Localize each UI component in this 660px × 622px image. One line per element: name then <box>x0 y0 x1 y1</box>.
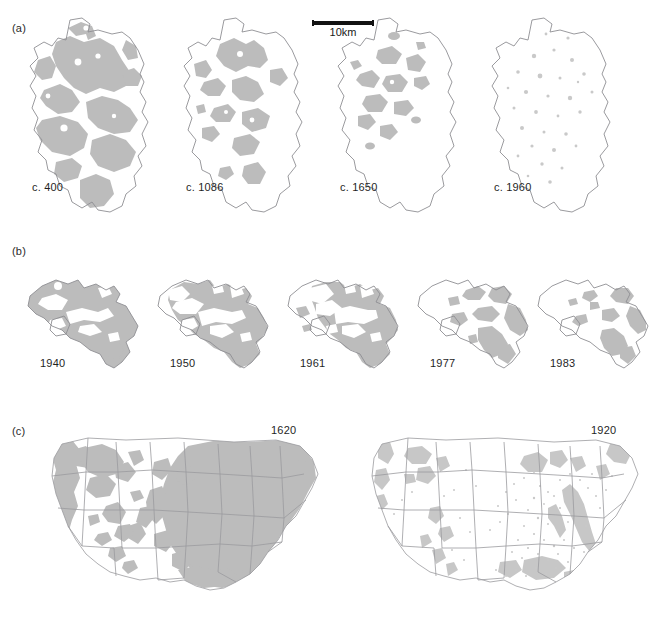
map-b-2-label: 1950 <box>170 357 195 369</box>
map-c-2-label: 1920 <box>591 424 616 436</box>
panel-label-a: (a) <box>12 22 26 34</box>
panel-label-b: (b) <box>12 245 26 257</box>
map-a-2-label: c. 1086 <box>186 181 223 193</box>
figure-canvas: (a) 10km <box>0 0 660 622</box>
map-a-4-label: c. 1960 <box>494 181 531 193</box>
panel-label-c: (c) <box>12 425 25 437</box>
map-c-1 <box>28 430 328 615</box>
map-b-3-label: 1961 <box>300 357 325 369</box>
map-b-4-label: 1977 <box>430 357 455 369</box>
map-c-1-label: 1620 <box>271 424 296 436</box>
map-a-3-label: c. 1650 <box>340 181 377 193</box>
map-b-1-label: 1940 <box>40 357 65 369</box>
map-a-1-label: c. 400 <box>32 181 63 193</box>
map-b-5-label: 1983 <box>550 357 575 369</box>
scale-bar-cap-left <box>312 20 314 26</box>
map-c-2 <box>348 430 648 615</box>
